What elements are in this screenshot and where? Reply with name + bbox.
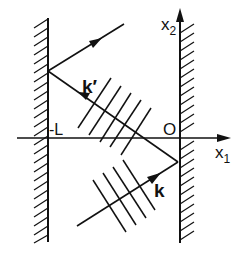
diagram-canvas: x2 x1 O -L k k′: [0, 0, 245, 259]
second-ray-arrowhead-icon: [89, 38, 102, 48]
k-label: k: [154, 180, 165, 201]
minus-L-label: -L: [49, 121, 63, 138]
x1-axis-label: x1: [215, 143, 231, 166]
x2-axis-label: x2: [161, 15, 177, 38]
reflected-ray-k-prime: [48, 71, 178, 162]
left-wall-hatching: [34, 19, 48, 243]
left-wall: [34, 18, 48, 243]
x1-arrowhead-icon: [217, 134, 231, 142]
second-reflection-ray: [48, 24, 124, 71]
origin-label: O: [163, 120, 176, 139]
right-wall: [176, 8, 194, 243]
k-prime-label: k′: [82, 76, 98, 97]
right-wall-hatching: [180, 24, 194, 240]
x2-arrowhead-icon: [176, 8, 184, 22]
